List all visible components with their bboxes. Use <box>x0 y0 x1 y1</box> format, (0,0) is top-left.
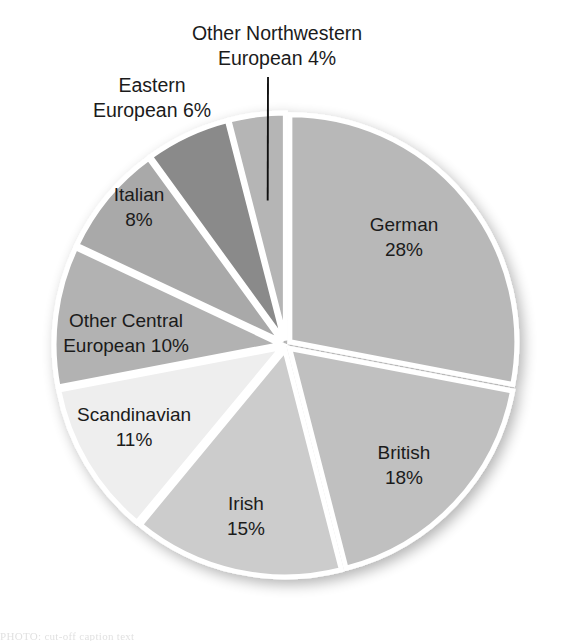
pie-chart-svg: German28%British18%Irish15%Scandinavian1… <box>0 0 571 641</box>
pie-label-eastern-european: EasternEuropean 6% <box>93 74 211 121</box>
pie-chart-figure: German28%British18%Irish15%Scandinavian1… <box>0 0 571 641</box>
pie-label-other-northwestern-european: Other NorthwesternEuropean 4% <box>192 22 362 69</box>
bottom-caption-fragment: PHOTO: cut-off caption text <box>0 631 300 641</box>
